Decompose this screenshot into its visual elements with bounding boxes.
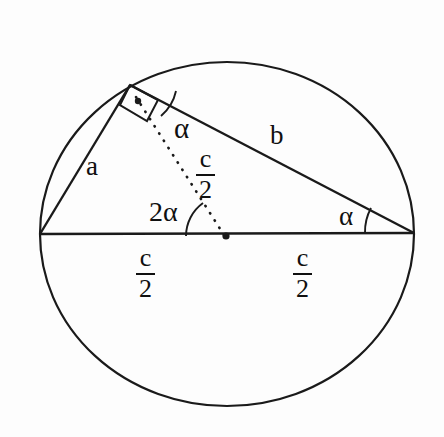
side-a-line	[40, 85, 130, 234]
label-angle-alpha-right: α	[339, 203, 353, 230]
fraction-numerator: c	[139, 245, 153, 271]
label-angle-alpha-apex: α	[174, 114, 189, 143]
label-fraction-left-half: c 2	[136, 245, 155, 302]
label-side-a: a	[86, 153, 98, 180]
label-fraction-radius: c 2	[196, 146, 215, 203]
circle-center-dot	[222, 232, 229, 239]
label-side-b: b	[270, 122, 284, 149]
fraction-numerator: c	[296, 245, 310, 271]
geometry-figure: a b α α 2α c 2 c 2 c 2	[0, 0, 444, 437]
fraction-numerator: c	[199, 146, 213, 172]
fraction-denominator: 2	[198, 177, 213, 203]
label-angle-two-alpha: 2α	[149, 198, 178, 226]
two-alpha-center-arc	[186, 203, 203, 236]
figure-canvas	[0, 0, 444, 437]
label-fraction-right-half: c 2	[293, 245, 312, 302]
alpha-right-vertex-arc	[365, 208, 371, 233]
fraction-denominator: 2	[138, 276, 153, 302]
fraction-denominator: 2	[295, 276, 310, 302]
